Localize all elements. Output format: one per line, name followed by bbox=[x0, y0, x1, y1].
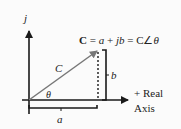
vector-label: C bbox=[55, 62, 63, 74]
b-label: b bbox=[111, 69, 117, 81]
real-axis-label-line2: Axis bbox=[134, 102, 155, 114]
b-bracket bbox=[102, 50, 106, 100]
a-label: a bbox=[57, 113, 63, 125]
diagram-svg: j C θ b a + Real Axis C = a + jb = C∠θ bbox=[0, 0, 181, 129]
phasor-equation: C = a + jb = C∠θ bbox=[79, 34, 160, 46]
a-bracket bbox=[29, 105, 97, 108]
angle-label: θ bbox=[46, 89, 51, 100]
real-axis-label-line1: + Real bbox=[134, 87, 163, 99]
phasor-diagram: j C θ b a + Real Axis C = a + jb = C∠θ bbox=[0, 0, 181, 129]
imag-axis-label: j bbox=[22, 12, 27, 24]
vector-c bbox=[29, 51, 97, 100]
